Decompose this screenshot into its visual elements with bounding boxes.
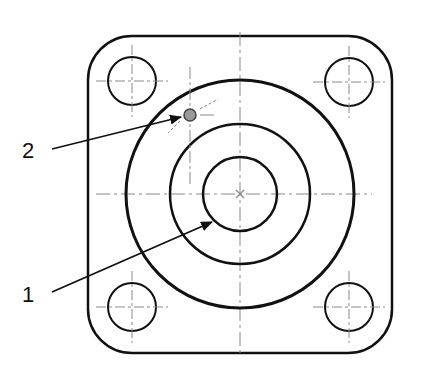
marker-diagonal-sw (168, 121, 180, 133)
drawing-canvas: 1 2 (0, 0, 422, 389)
flange-drawing (0, 0, 422, 389)
callout-leader-2 (52, 117, 181, 149)
callout-label-2: 2 (22, 140, 34, 162)
callout-label-1: 1 (22, 284, 34, 306)
marker-diagonal-ne (200, 99, 218, 109)
point-marker (184, 109, 196, 121)
